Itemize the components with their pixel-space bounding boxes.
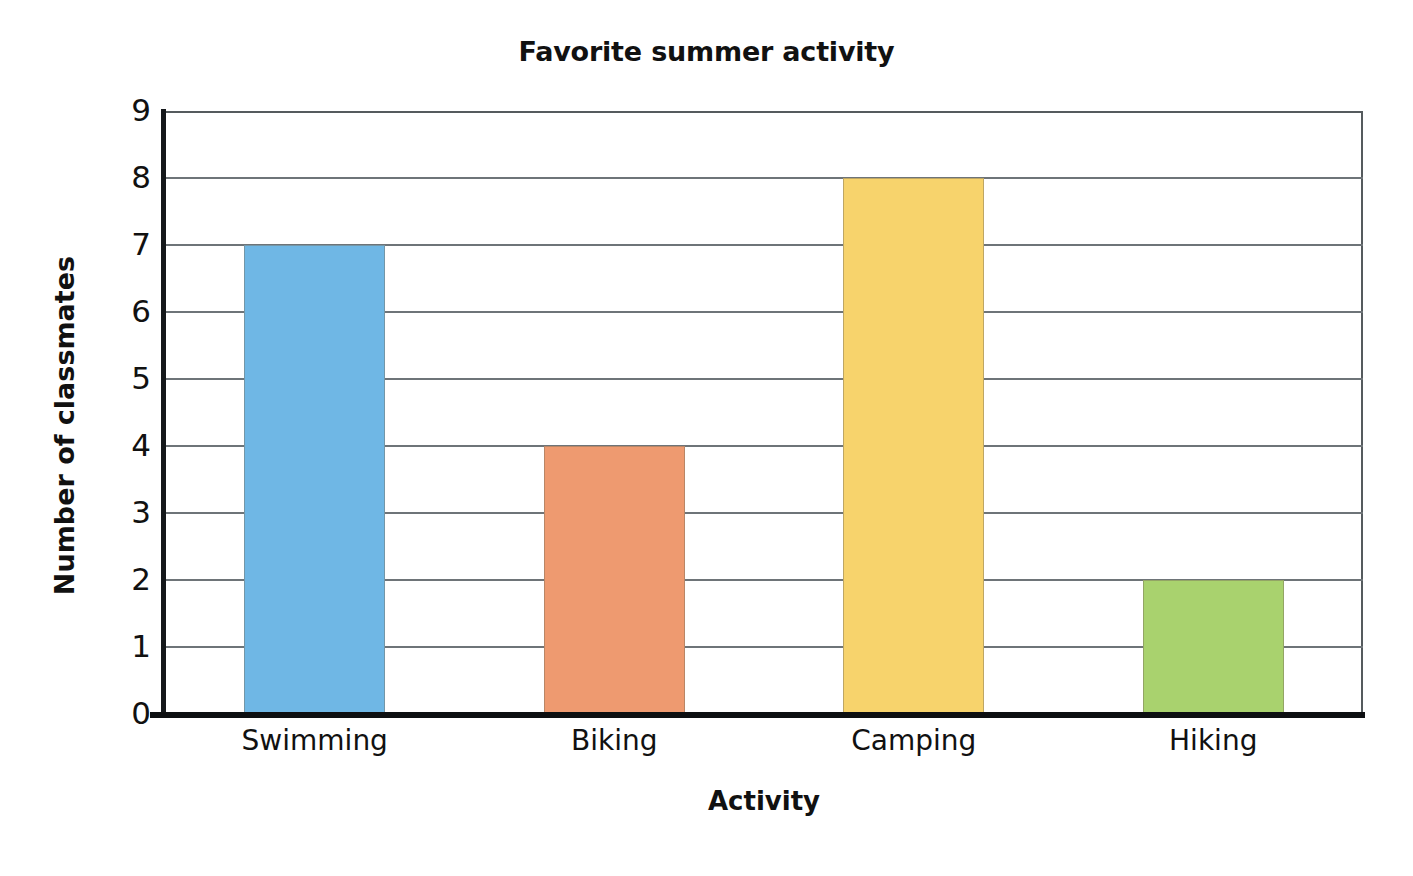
x-tick-label-swimming: Swimming <box>165 724 465 757</box>
bar-biking <box>544 446 685 714</box>
y-tick-label: 4 <box>31 430 151 461</box>
x-tick-label-hiking: Hiking <box>1064 724 1364 757</box>
chart-title: Favorite summer activity <box>0 36 1413 67</box>
y-tick-label: 1 <box>31 631 151 662</box>
x-tick-label-camping: Camping <box>764 724 1064 757</box>
bar-chart-figure: Favorite summer activity Number of class… <box>0 0 1413 876</box>
y-tick-label: 7 <box>31 229 151 260</box>
bar-swimming <box>244 245 385 714</box>
y-axis-line <box>161 109 166 718</box>
plot-area <box>165 111 1363 714</box>
plot-border-right <box>1361 111 1363 714</box>
y-tick-label: 5 <box>31 363 151 394</box>
bar-hiking <box>1143 580 1284 714</box>
y-tick-label: 3 <box>31 497 151 528</box>
x-axis-line <box>150 712 1365 718</box>
y-tick-label: 8 <box>31 162 151 193</box>
gridline <box>165 177 1363 179</box>
x-axis-title: Activity <box>165 786 1363 816</box>
bar-camping <box>843 178 984 714</box>
y-tick-label: 0 <box>31 698 151 729</box>
x-tick-label-biking: Biking <box>465 724 765 757</box>
y-tick-label: 9 <box>31 95 151 126</box>
y-tick-label: 6 <box>31 296 151 327</box>
plot-border-top <box>165 111 1363 113</box>
y-tick-label: 2 <box>31 564 151 595</box>
